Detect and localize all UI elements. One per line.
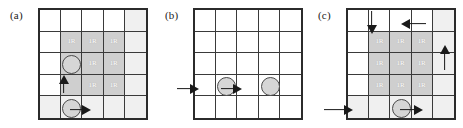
- grid-cell: [40, 96, 61, 118]
- arrow-head: [59, 75, 69, 84]
- grid-cell: [195, 32, 216, 54]
- arrow-right-entry: [324, 104, 352, 115]
- grid-cell: 1R: [369, 53, 390, 75]
- grid-cell: [280, 32, 301, 54]
- arrow-right-between: [221, 83, 241, 94]
- panel-label: (b): [165, 9, 178, 21]
- grid-cell: [433, 96, 454, 118]
- cell-label: 1R: [110, 38, 118, 45]
- grid-cell: [237, 32, 258, 54]
- grid-cell: [216, 53, 237, 75]
- arrow-up-col2: [58, 76, 69, 93]
- panel-b: (b): [155, 0, 310, 128]
- arrow-left-top: [402, 18, 426, 29]
- cell-label: 1R: [89, 82, 97, 89]
- robot-token-upper: [62, 55, 81, 74]
- grid-cell: 1R: [390, 32, 411, 54]
- grid-cell: 1R: [369, 32, 390, 54]
- arrow-right-entry: [177, 83, 198, 94]
- grid-cell: 1R: [104, 75, 125, 97]
- grid-cell: [125, 53, 146, 75]
- grid-cell: [104, 10, 125, 32]
- grid-cell: [237, 96, 258, 118]
- cell-label: 1R: [375, 82, 383, 89]
- grid-cell: [195, 10, 216, 32]
- grid-cell: 1R: [390, 75, 411, 97]
- grid-cell: 1R: [104, 32, 125, 54]
- arrow-head: [414, 105, 423, 115]
- grid-cell: [433, 10, 454, 32]
- arrow-shaft: [444, 53, 446, 70]
- arrow-head: [82, 105, 91, 115]
- grid-cell: [61, 10, 82, 32]
- grid-cell: [280, 53, 301, 75]
- grid-cell: [216, 10, 237, 32]
- grid-cell: [259, 10, 280, 32]
- grid-cell: [125, 75, 146, 97]
- grid-cell: [259, 96, 280, 118]
- arrow-down-col2: [366, 11, 377, 33]
- panel-label: (c): [318, 9, 331, 21]
- grid-cell: [369, 96, 390, 118]
- arrow-right-exit: [400, 104, 422, 115]
- grid-cell: [280, 75, 301, 97]
- arrow-head: [401, 19, 410, 29]
- arrow-head: [190, 84, 199, 94]
- cell-label: 1R: [397, 38, 405, 45]
- grid-cells: [195, 10, 301, 118]
- grid-cell: [195, 53, 216, 75]
- grid-cell: 1R: [412, 53, 433, 75]
- grid-cell: [125, 96, 146, 118]
- cell-label: 1R: [375, 60, 383, 67]
- grid-panel-b: [193, 8, 303, 120]
- grid-cell: [40, 32, 61, 54]
- grid-cell: [348, 75, 369, 97]
- cell-label: 1R: [67, 38, 75, 45]
- grid-cell: [195, 96, 216, 118]
- cell-label: 1R: [375, 38, 383, 45]
- grid-cell: 1R: [82, 75, 103, 97]
- grid-cell: [40, 10, 61, 32]
- grid-cell: [125, 10, 146, 32]
- grid-cell: 1R: [82, 53, 103, 75]
- arrow-right-row5: [70, 104, 90, 115]
- grid-cell: 1R: [61, 32, 82, 54]
- arrow-shaft: [63, 83, 65, 93]
- grid-cell: 1R: [390, 53, 411, 75]
- arrow-shaft: [409, 23, 426, 25]
- grid-cell: 1R: [412, 32, 433, 54]
- grid-cell: [280, 10, 301, 32]
- arrow-shaft: [177, 88, 191, 90]
- cell-label: 1R: [418, 38, 426, 45]
- cell-label: 1R: [418, 60, 426, 67]
- grid-cell: [259, 53, 280, 75]
- grid-cell: 1R: [104, 53, 125, 75]
- cell-label: 1R: [110, 82, 118, 89]
- grid-cell: [348, 53, 369, 75]
- grid-cell: [40, 53, 61, 75]
- grid-cell: [348, 32, 369, 54]
- grid-cell: 1R: [369, 75, 390, 97]
- grid-cell: 1R: [82, 32, 103, 54]
- arrow-head: [233, 84, 242, 94]
- arrow-shaft: [324, 109, 345, 111]
- grid-cell: [280, 96, 301, 118]
- arrow-shaft: [371, 11, 373, 26]
- arrow-head: [367, 25, 377, 34]
- grid-cell: [216, 96, 237, 118]
- grid-cell: [216, 32, 237, 54]
- arrow-head: [344, 105, 353, 115]
- cell-label: 1R: [418, 82, 426, 89]
- cell-label: 1R: [110, 60, 118, 67]
- cell-label: 1R: [397, 82, 405, 89]
- panel-c: (c)1R1R1R1R1R1R1R1R1R: [308, 0, 463, 128]
- panel-a: (a)1R1R1R1R1R1R1R: [0, 0, 155, 128]
- grid-cell: [237, 53, 258, 75]
- grid-cell: [125, 32, 146, 54]
- cell-label: 1R: [89, 38, 97, 45]
- grid-cells: 1R1R1R1R1R1R1R: [40, 10, 146, 118]
- grid-cell: [237, 10, 258, 32]
- arrow-shaft: [400, 109, 415, 111]
- grid-cell: 1R: [412, 75, 433, 97]
- grid-cell: [259, 32, 280, 54]
